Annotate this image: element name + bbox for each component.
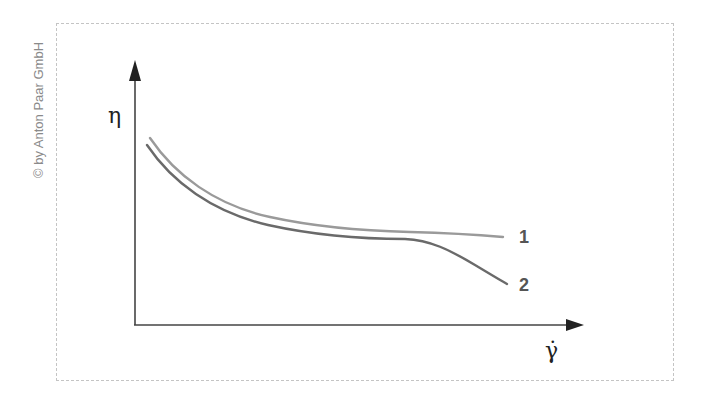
y-axis-arrow-icon — [129, 60, 141, 81]
x-axis-label: γ̇ — [545, 338, 558, 363]
viscosity-curve-plot — [0, 0, 708, 403]
curve-1-label: 1 — [519, 227, 529, 248]
curve-2 — [147, 145, 507, 284]
curve-1 — [150, 138, 503, 237]
curve-2-label: 2 — [519, 275, 529, 296]
y-axis-label: η — [108, 103, 121, 128]
x-axis-arrow-icon — [566, 319, 584, 331]
